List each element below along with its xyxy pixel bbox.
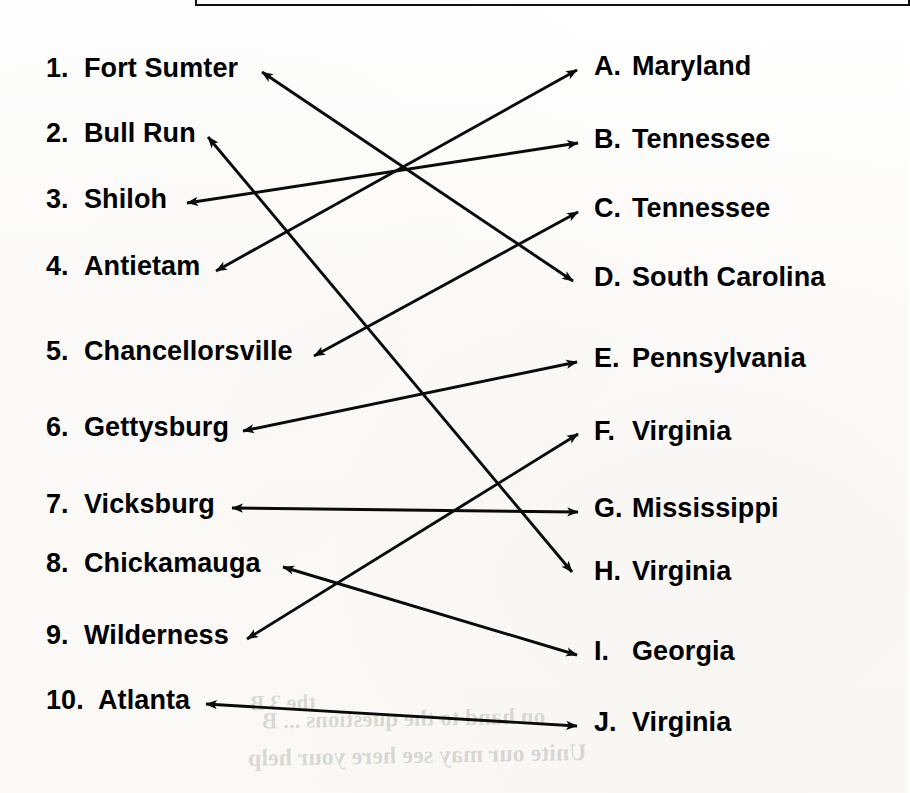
right-item-I[interactable]: I.Georgia bbox=[594, 638, 735, 665]
left-item-label: Bull Run bbox=[84, 118, 196, 148]
right-item-label: Virginia bbox=[632, 416, 731, 446]
left-item-label: Vicksburg bbox=[84, 489, 215, 519]
right-item-letter: H. bbox=[594, 558, 632, 585]
left-item-label: Fort Sumter bbox=[84, 53, 238, 83]
right-item-letter: J. bbox=[594, 709, 632, 736]
left-item-label: Atlanta bbox=[98, 685, 190, 715]
left-item-number: 8. bbox=[46, 550, 84, 577]
left-item-number: 4. bbox=[46, 253, 84, 280]
right-item-D[interactable]: D.South Carolina bbox=[594, 264, 825, 291]
left-item-number: 6. bbox=[46, 414, 84, 441]
left-item-number: 9. bbox=[46, 622, 84, 649]
right-item-J[interactable]: J.Virginia bbox=[594, 709, 731, 736]
left-item-number: 7. bbox=[46, 491, 84, 518]
left-item-label: Antietam bbox=[84, 251, 200, 281]
connector-9-to-F[interactable] bbox=[247, 434, 578, 639]
right-item-label: Virginia bbox=[632, 556, 731, 586]
right-item-letter: A. bbox=[594, 53, 632, 80]
left-item-label: Shiloh bbox=[84, 184, 167, 214]
left-item-label: Chickamauga bbox=[84, 548, 261, 578]
right-item-label: South Carolina bbox=[632, 262, 825, 292]
left-item-number: 3. bbox=[46, 186, 84, 213]
right-item-label: Georgia bbox=[632, 636, 735, 666]
right-item-E[interactable]: E.Pennsylvania bbox=[594, 345, 806, 372]
left-item-label: Gettysburg bbox=[84, 412, 229, 442]
right-item-C[interactable]: C.Tennessee bbox=[594, 195, 770, 222]
right-item-letter: E. bbox=[594, 345, 632, 372]
left-item-8[interactable]: 8.Chickamauga bbox=[46, 550, 261, 577]
left-item-label: Wilderness bbox=[84, 620, 229, 650]
left-item-2[interactable]: 2.Bull Run bbox=[46, 120, 196, 147]
right-item-label: Tennessee bbox=[632, 124, 770, 154]
right-item-letter: I. bbox=[594, 638, 632, 665]
left-item-5[interactable]: 5.Chancellorsville bbox=[46, 338, 293, 365]
right-item-label: Pennsylvania bbox=[632, 343, 806, 373]
right-item-letter: B. bbox=[594, 126, 632, 153]
left-item-label: Chancellorsville bbox=[84, 336, 293, 366]
right-item-F[interactable]: F.Virginia bbox=[594, 418, 731, 445]
right-item-label: Virginia bbox=[632, 707, 731, 737]
connector-5-to-C[interactable] bbox=[314, 212, 578, 356]
left-item-number: 1. bbox=[46, 55, 84, 82]
left-item-4[interactable]: 4.Antietam bbox=[46, 253, 200, 280]
connector-6-to-E[interactable] bbox=[243, 362, 577, 431]
left-item-9[interactable]: 9.Wilderness bbox=[46, 622, 229, 649]
left-item-6[interactable]: 6.Gettysburg bbox=[46, 414, 229, 441]
right-item-letter: G. bbox=[594, 495, 632, 522]
right-item-A[interactable]: A.Maryland bbox=[594, 53, 751, 80]
left-item-number: 10. bbox=[46, 687, 98, 714]
right-item-label: Tennessee bbox=[632, 193, 770, 223]
connector-7-to-G[interactable] bbox=[232, 508, 578, 512]
right-item-letter: C. bbox=[594, 195, 632, 222]
right-item-B[interactable]: B.Tennessee bbox=[594, 126, 770, 153]
right-item-label: Maryland bbox=[632, 51, 751, 81]
connector-8-to-I[interactable] bbox=[283, 567, 577, 655]
left-item-number: 5. bbox=[46, 338, 84, 365]
connector-1-to-D[interactable] bbox=[262, 72, 573, 281]
left-item-number: 2. bbox=[46, 120, 84, 147]
left-item-10[interactable]: 10.Atlanta bbox=[46, 687, 190, 714]
left-item-7[interactable]: 7.Vicksburg bbox=[46, 491, 215, 518]
left-item-1[interactable]: 1.Fort Sumter bbox=[46, 55, 238, 82]
connector-10-to-J[interactable] bbox=[206, 704, 577, 726]
left-item-3[interactable]: 3.Shiloh bbox=[46, 186, 167, 213]
right-item-H[interactable]: H.Virginia bbox=[594, 558, 731, 585]
right-item-letter: F. bbox=[594, 418, 632, 445]
right-item-label: Mississippi bbox=[632, 493, 779, 523]
right-item-G[interactable]: G.Mississippi bbox=[594, 495, 779, 522]
right-item-letter: D. bbox=[594, 264, 632, 291]
